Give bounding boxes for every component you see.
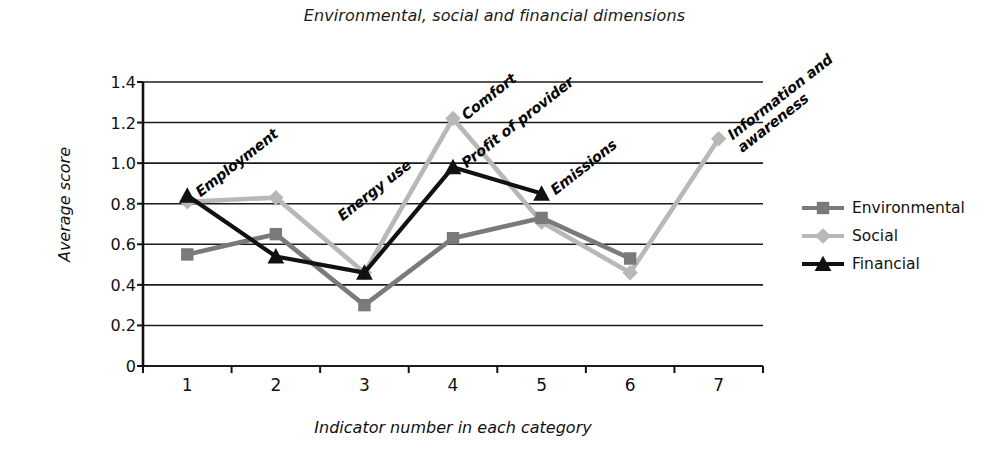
legend-swatch-triangle-icon	[800, 255, 846, 273]
plot-area	[143, 82, 763, 366]
data-point-triangle	[179, 187, 196, 202]
x-tick-label: 7	[699, 375, 739, 395]
data-point-triangle	[445, 159, 462, 174]
data-point-diamond	[815, 228, 831, 244]
legend-swatch-diamond-icon	[800, 227, 846, 245]
y-tick-label: 0.6	[92, 235, 136, 254]
legend-item-social[interactable]: Social	[800, 222, 985, 250]
legend-item-financial[interactable]: Financial	[800, 250, 985, 278]
y-tick-label: 1.0	[92, 154, 136, 173]
series-line	[187, 218, 630, 305]
legend-label: Environmental	[852, 199, 965, 217]
series-financial	[179, 159, 550, 280]
x-axis-tick-labels: 1234567	[143, 375, 763, 401]
data-point-square	[624, 252, 636, 264]
plot-canvas	[143, 82, 763, 366]
y-tick-label: 1.2	[92, 113, 136, 132]
chart-title: Environmental, social and financial dime…	[0, 6, 989, 25]
x-axis-title: Indicator number in each category	[143, 418, 763, 437]
x-tick-label: 6	[610, 375, 650, 395]
data-point-square	[817, 202, 829, 214]
y-axis-tick-labels: 00.20.40.60.81.01.21.4	[88, 82, 136, 366]
legend-swatch-square-icon	[800, 199, 846, 217]
y-tick-label: 1.4	[92, 73, 136, 92]
data-point-square	[535, 212, 547, 224]
data-point-square	[181, 248, 193, 260]
legend-label: Social	[852, 227, 898, 245]
y-tick-label: 0.2	[92, 316, 136, 335]
y-tick-label: 0.8	[92, 194, 136, 213]
legend-label: Financial	[852, 255, 920, 273]
x-tick-label: 1	[167, 375, 207, 395]
x-tick-label: 2	[256, 375, 296, 395]
chart-legend: EnvironmentalSocialFinancial	[800, 194, 985, 278]
data-point-square	[358, 299, 370, 311]
y-tick-label: 0.4	[92, 275, 136, 294]
x-tick-label: 3	[344, 375, 384, 395]
y-tick-label: 0	[92, 357, 136, 376]
data-point-square	[270, 228, 282, 240]
legend-item-environmental[interactable]: Environmental	[800, 194, 985, 222]
series-environmental	[181, 212, 636, 312]
x-tick-label: 4	[433, 375, 473, 395]
series-line	[187, 167, 541, 272]
chart-root: Environmental, social and financial dime…	[0, 0, 989, 450]
x-tick-label: 5	[522, 375, 562, 395]
y-axis-title: Average score	[55, 125, 74, 285]
data-point-square	[447, 232, 459, 244]
